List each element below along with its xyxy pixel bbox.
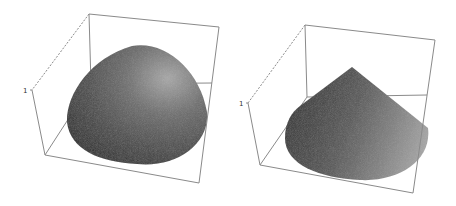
box-edge-front-left-vertical [248,103,260,165]
cone-plot: 1 [239,25,435,193]
figure-canvas: 1 1 [0,0,456,206]
box-edge-top-left [32,14,89,90]
box-edge-top-back [89,14,219,27]
box-edge-top-back [305,25,435,40]
box-edge-back-left-vertical [305,25,307,97]
z-axis-tick-label: 1 [23,87,27,95]
hemisphere-plot: 1 [23,14,219,183]
box-edge-top-left [248,25,305,103]
z-axis-tick-label: 1 [239,100,243,108]
hemisphere-surface [67,45,207,164]
box-edge-front-left-vertical [32,90,45,155]
box-edge-front-right-vertical [413,40,435,193]
